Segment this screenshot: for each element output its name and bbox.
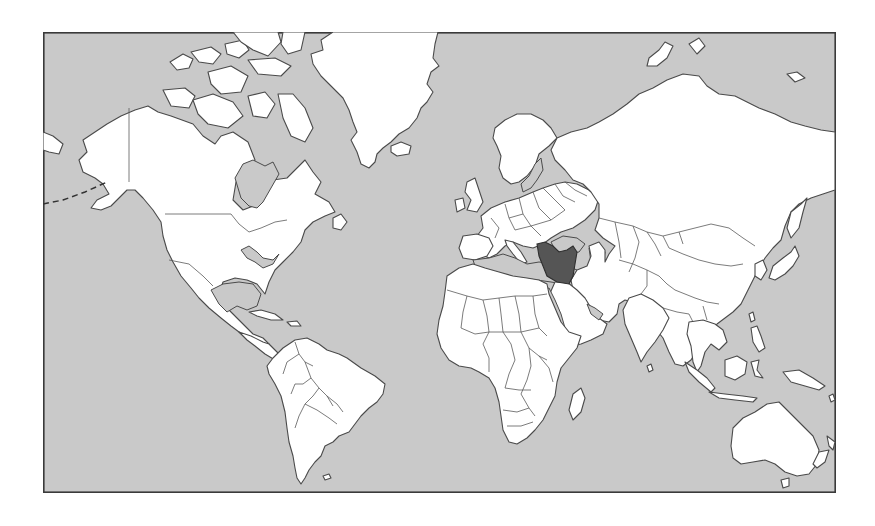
- tasmania: [781, 478, 789, 488]
- map-canvas: [43, 32, 836, 493]
- world-map: World map (Mercator) with Iran highlight…: [43, 32, 836, 493]
